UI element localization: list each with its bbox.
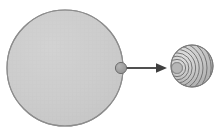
- arrow-head-icon: [156, 63, 167, 73]
- emission-point-group: [115, 62, 126, 73]
- diagram-figure: [0, 0, 224, 136]
- large-sphere-texture: [8, 11, 123, 126]
- direction-arrow-group: [127, 63, 167, 73]
- small-sphere-core: [172, 63, 183, 74]
- emission-point: [115, 62, 126, 73]
- large-sphere-group: [7, 10, 123, 126]
- diagram-canvas: [0, 0, 224, 136]
